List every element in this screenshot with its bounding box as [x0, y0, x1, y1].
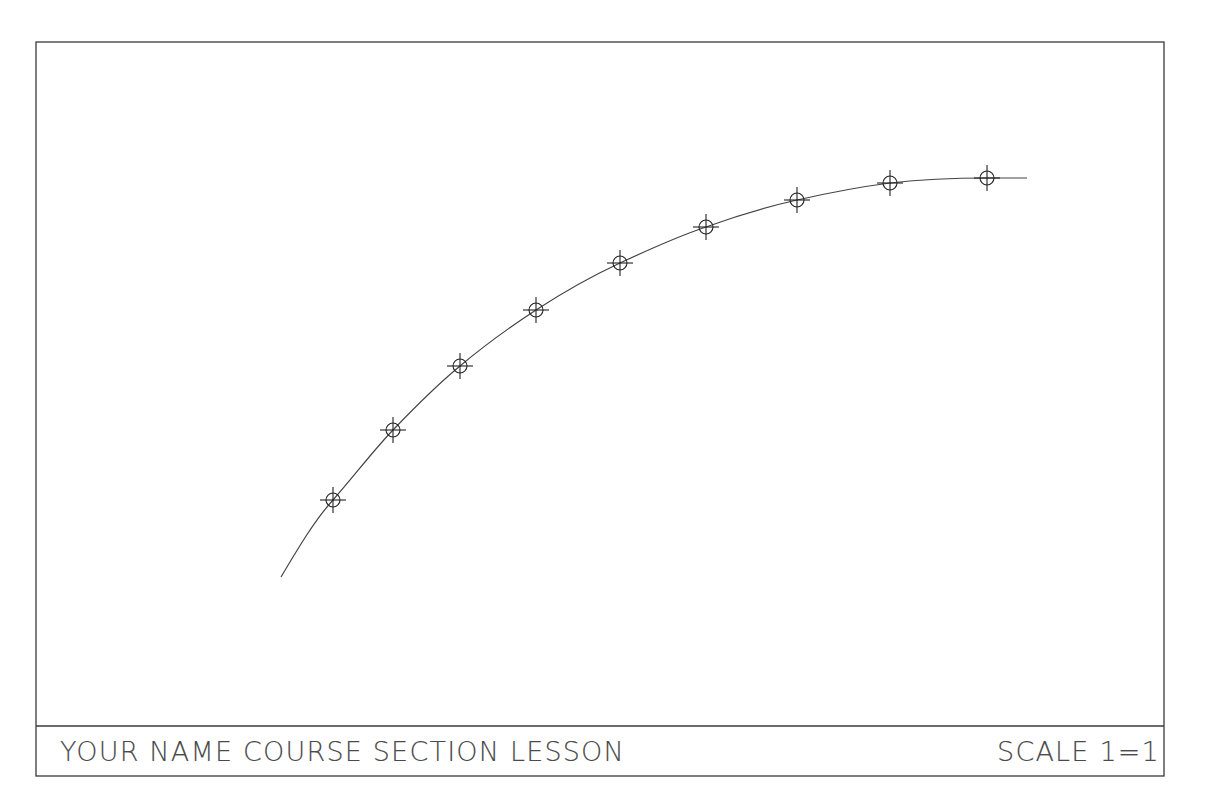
spline-curve	[281, 178, 1027, 577]
circle-cross-marker-icon	[320, 487, 346, 513]
title-block-name-text: YOUR NAME COURSE SECTION LESSON	[60, 729, 625, 775]
circle-cross-marker-icon	[607, 250, 633, 276]
drawing-border	[36, 42, 1164, 776]
circle-cross-marker-icon	[784, 187, 810, 213]
circle-cross-marker-icon	[447, 353, 473, 379]
circle-cross-marker-icon	[877, 170, 903, 196]
circle-cross-marker-icon	[974, 165, 1000, 191]
drawing-sheet	[0, 0, 1214, 812]
point-markers	[320, 165, 1000, 513]
title-block-scale-text: SCALE 1=1	[997, 729, 1160, 775]
circle-cross-marker-icon	[523, 297, 549, 323]
circle-cross-marker-icon	[693, 214, 719, 240]
